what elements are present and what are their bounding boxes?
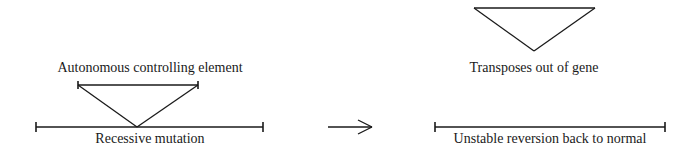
right-arrow-icon — [328, 120, 372, 134]
transposition-diagram — [0, 0, 695, 152]
left-controlling-element-triangle — [78, 81, 198, 127]
transposes-out-label: Transposes out of gene — [470, 60, 599, 76]
autonomous-controlling-element-label: Autonomous controlling element — [57, 60, 242, 76]
unstable-reversion-label: Unstable reversion back to normal — [454, 131, 647, 147]
right-excised-element-triangle — [474, 8, 595, 51]
recessive-mutation-label: Recessive mutation — [95, 131, 204, 147]
